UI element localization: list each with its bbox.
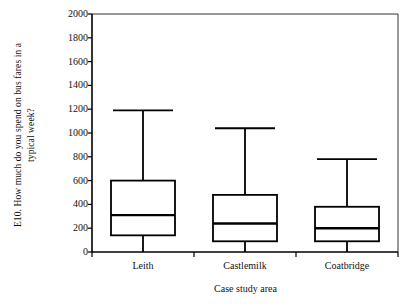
- x-axis-tick-label-castlemilk: Castlemilk: [223, 260, 266, 271]
- x-axis-tick-label-coatbridge: Coatbridge: [325, 260, 369, 271]
- x-axis-title: Case study area: [92, 283, 399, 294]
- box-plot-castlemilk: [213, 128, 277, 252]
- x-axis-tick-label-leith: Leith: [132, 260, 153, 271]
- box-plot-figure: E10. How much do you spend on bus fares …: [0, 0, 410, 306]
- box-iqr: [111, 181, 175, 236]
- box-iqr: [213, 195, 277, 241]
- box-plot-leith: [111, 110, 175, 252]
- box-plot-coatbridge: [315, 159, 379, 252]
- box-iqr: [315, 207, 379, 242]
